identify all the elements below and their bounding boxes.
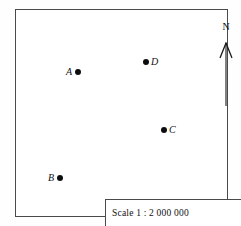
- map-point-c: C: [161, 125, 176, 135]
- map-point-dot-a: [75, 69, 81, 75]
- north-arrow: N: [212, 22, 240, 108]
- scale-box: Scale 1 : 2 000 000: [105, 199, 241, 226]
- scale-text: Scale 1 : 2 000 000: [106, 208, 189, 218]
- map-point-label-d: D: [151, 57, 158, 67]
- map-frame: N Scale 1 : 2 000 000 ADCB: [15, 9, 228, 217]
- map-point-label-b: B: [48, 173, 54, 183]
- map-point-label-a: A: [66, 67, 72, 77]
- map-point-dot-b: [57, 175, 63, 181]
- map-point-dot-c: [161, 127, 167, 133]
- map-figure: N Scale 1 : 2 000 000 ADCB: [0, 0, 241, 226]
- map-point-d: D: [143, 57, 158, 67]
- map-point-a: A: [66, 67, 81, 77]
- map-point-label-c: C: [169, 125, 176, 135]
- map-point-dot-d: [143, 59, 149, 65]
- north-arrow-icon: [212, 22, 240, 108]
- map-point-b: B: [48, 173, 63, 183]
